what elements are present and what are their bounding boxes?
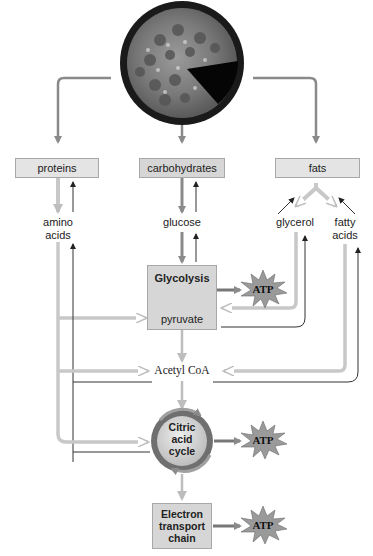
proteins-box: proteins xyxy=(15,158,99,178)
fats-split-arrows xyxy=(278,183,355,214)
carbohydrates-box: carbohydrates xyxy=(139,158,225,178)
acetyl-coa-label: Acetyl CoA xyxy=(150,364,214,377)
citric-acid-cycle-label: Citric acid cycle xyxy=(162,421,202,457)
glycolysis-title: Glycolysis xyxy=(154,272,209,284)
atp-label-glycolysis: ATP xyxy=(243,283,283,295)
fats-label: fats xyxy=(309,162,327,174)
glucose-glycolysis-arrows xyxy=(182,232,196,262)
atp-label-citric-cycle: ATP xyxy=(243,434,283,446)
carbohydrates-label: carbohydrates xyxy=(147,162,217,174)
amino-cycle-arrows xyxy=(58,434,150,452)
proteins-label: proteins xyxy=(37,162,76,174)
fats-box: fats xyxy=(275,158,360,178)
glycerol-label: glycerol xyxy=(270,216,320,229)
fatty-acetylcoa-arrows xyxy=(213,244,358,382)
glucose-label: glucose xyxy=(157,216,207,229)
glycolysis-box: Glycolysis pyruvate xyxy=(147,265,217,330)
amino-pyruvate-arrows xyxy=(58,242,146,462)
amino-acids-label: amino acids xyxy=(38,216,78,242)
fatty-acids-label: fatty acids xyxy=(328,216,362,242)
carbs-glucose-arrows xyxy=(182,178,196,212)
electron-transport-chain-box: Electron transport chain xyxy=(152,503,212,549)
protein-amino-arrows xyxy=(58,178,73,212)
pyruvate-label: pyruvate xyxy=(161,313,203,325)
atp-label-etc: ATP xyxy=(243,519,283,531)
pizza-image xyxy=(120,1,244,125)
